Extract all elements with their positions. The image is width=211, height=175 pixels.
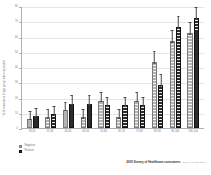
x-axis-tick-label: 95-104 bbox=[166, 131, 184, 134]
bar-group bbox=[95, 7, 113, 128]
x-axis-tick-label: 65-74 bbox=[113, 131, 131, 134]
bar[interactable] bbox=[152, 62, 157, 128]
y-axis-tick-label: 60 bbox=[15, 36, 18, 39]
x-axis-tick-label: 85-94 bbox=[148, 131, 166, 134]
bar-group bbox=[131, 7, 149, 128]
error-bar bbox=[154, 51, 155, 63]
bar[interactable] bbox=[45, 117, 50, 128]
error-bar bbox=[172, 30, 173, 42]
legend-label: Positive bbox=[24, 150, 33, 153]
error-bar bbox=[107, 97, 108, 106]
error-bar bbox=[101, 92, 102, 101]
bar-wrapper bbox=[170, 7, 175, 128]
bar-wrapper bbox=[105, 7, 110, 128]
error-bar bbox=[54, 106, 55, 115]
error-bar bbox=[136, 92, 137, 101]
bar[interactable] bbox=[81, 117, 86, 128]
error-bar bbox=[89, 95, 90, 104]
legend-swatch bbox=[19, 150, 22, 153]
bar-wrapper bbox=[158, 7, 163, 128]
error-bar bbox=[83, 109, 84, 118]
x-axis-tick-label: 105-114 bbox=[184, 131, 202, 134]
bar[interactable] bbox=[187, 33, 192, 128]
bar[interactable] bbox=[69, 104, 74, 128]
error-bar bbox=[178, 16, 179, 28]
legend-label: Negative bbox=[24, 145, 35, 148]
x-axis-tick-label: 18-24 bbox=[23, 131, 41, 134]
bar-wrapper bbox=[51, 7, 56, 128]
y-axis-title: % of consumers in age group who responde… bbox=[3, 60, 6, 115]
x-axis-tick-label: 45-54 bbox=[77, 131, 95, 134]
bar-group bbox=[24, 7, 42, 128]
bar[interactable] bbox=[87, 104, 92, 128]
bar-wrapper bbox=[27, 7, 32, 128]
bar-group bbox=[184, 7, 202, 128]
error-bar bbox=[196, 7, 197, 19]
bar-wrapper bbox=[194, 7, 199, 128]
y-axis-tick-label: 30 bbox=[15, 82, 18, 85]
error-bar bbox=[36, 108, 37, 117]
bar[interactable] bbox=[33, 116, 38, 128]
bar[interactable] bbox=[63, 110, 68, 128]
bar[interactable] bbox=[116, 117, 121, 128]
x-axis-tick-label: 25-34 bbox=[41, 131, 59, 134]
y-axis-tick bbox=[19, 129, 22, 130]
bar-wrapper bbox=[69, 7, 74, 128]
bar[interactable] bbox=[98, 101, 103, 128]
bar[interactable] bbox=[27, 119, 32, 128]
y-axis-tick-label: 80 bbox=[15, 6, 18, 9]
bar-wrapper bbox=[176, 7, 181, 128]
bar-wrapper bbox=[81, 7, 86, 128]
bar-wrapper bbox=[152, 7, 157, 128]
bar[interactable] bbox=[105, 105, 110, 128]
x-axis-tick-label: 35-44 bbox=[59, 131, 77, 134]
error-bar bbox=[30, 111, 31, 120]
chart-page: % of consumers in age group who responde… bbox=[0, 0, 211, 175]
y-axis-tick-label: 50 bbox=[15, 51, 18, 54]
error-bar bbox=[65, 102, 66, 111]
bar-groups bbox=[22, 7, 204, 128]
plot-area: 01020304050607080 bbox=[21, 7, 204, 129]
bar[interactable] bbox=[170, 41, 175, 128]
bar-group bbox=[77, 7, 95, 128]
bar-group bbox=[166, 7, 184, 128]
error-bar bbox=[190, 22, 191, 34]
bar-group bbox=[60, 7, 78, 128]
bar-wrapper bbox=[45, 7, 50, 128]
bar-group bbox=[113, 7, 131, 128]
bar-wrapper bbox=[33, 7, 38, 128]
y-axis-tick-label: 0 bbox=[17, 128, 18, 131]
bar-wrapper bbox=[87, 7, 92, 128]
x-axis-tick-label: 75-84 bbox=[130, 131, 148, 134]
legend-item[interactable]: Positive bbox=[19, 150, 35, 153]
bar-wrapper bbox=[122, 7, 127, 128]
legend-item[interactable]: Negative bbox=[19, 145, 35, 148]
x-axis-labels: 18-2425-3435-4445-5455-6465-7475-8485-94… bbox=[21, 131, 204, 134]
bar-group bbox=[149, 7, 167, 128]
bar-wrapper bbox=[134, 7, 139, 128]
bar-group bbox=[42, 7, 60, 128]
legend-swatch bbox=[19, 145, 22, 148]
bar[interactable] bbox=[51, 114, 56, 128]
error-bar bbox=[47, 109, 48, 118]
bar[interactable] bbox=[158, 85, 163, 128]
bar[interactable] bbox=[194, 18, 199, 128]
bar[interactable] bbox=[122, 105, 127, 128]
chart-footer: 2005 Survey of Healthcare consumers Sour… bbox=[126, 160, 205, 164]
bar[interactable] bbox=[140, 105, 145, 128]
bar[interactable] bbox=[176, 27, 181, 128]
y-axis-tick-label: 10 bbox=[15, 112, 18, 115]
bar-wrapper bbox=[116, 7, 121, 128]
y-axis-tick-label: 40 bbox=[15, 67, 18, 70]
error-bar bbox=[119, 109, 120, 118]
footer-source-title: 2005 Survey of Healthcare consumers bbox=[126, 160, 180, 164]
bar-wrapper bbox=[63, 7, 68, 128]
chart-legend: NegativePositive bbox=[19, 145, 35, 155]
bar-wrapper bbox=[140, 7, 145, 128]
error-bar bbox=[143, 97, 144, 106]
y-axis-tick-label: 20 bbox=[15, 97, 18, 100]
error-bar bbox=[125, 97, 126, 106]
bar[interactable] bbox=[134, 101, 139, 128]
x-axis-tick-label: 55-64 bbox=[95, 131, 113, 134]
error-bar bbox=[160, 74, 161, 86]
